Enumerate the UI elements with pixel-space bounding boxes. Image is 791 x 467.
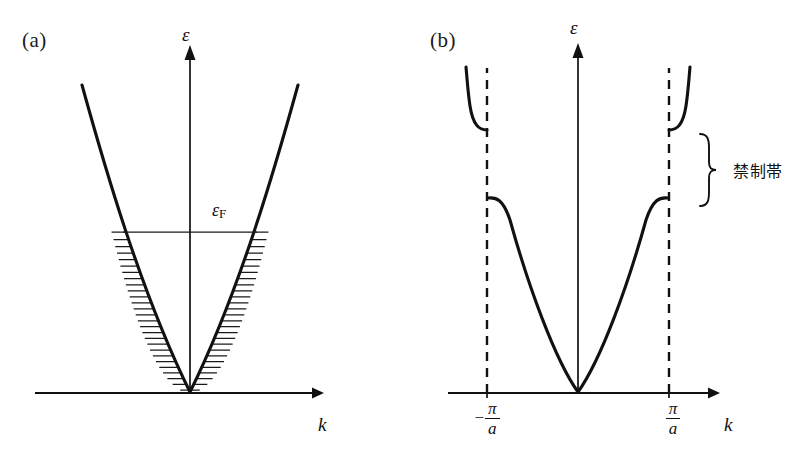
panel-b-k-axis-label: k — [724, 414, 732, 436]
panel-b-label: (b) — [430, 28, 456, 53]
panel-b-k-axis-arrowhead — [708, 388, 720, 399]
panel-a-parabola-left-branch — [82, 85, 190, 392]
fraction-denominator: a — [666, 419, 681, 437]
fraction-denominator: a — [485, 419, 500, 437]
band-gap-annotation-label: 禁制帯 — [733, 158, 783, 182]
fraction-numerator: π — [485, 400, 500, 419]
figure-root: (a) (b) ε k εF ε k −πa πa 禁制帯 — [0, 0, 791, 467]
fermi-energy-label: εF — [212, 200, 226, 222]
panel-b-graphics — [448, 43, 720, 399]
panel-b-energy-axis-label: ε — [570, 17, 578, 39]
band-gap-brace — [700, 134, 716, 206]
panel-a-parabola-right-branch — [190, 85, 298, 392]
tick-label-negative-pi-over-a: −πa — [455, 400, 519, 437]
panel-a-energy-axis-label: ε — [182, 24, 190, 46]
panel-a-k-axis-label: k — [318, 414, 326, 436]
panel-b-upper-band-right — [669, 67, 690, 130]
fraction-numerator: π — [666, 400, 681, 419]
panel-a-energy-axis-arrowhead — [185, 45, 196, 60]
panel-a-label: (a) — [22, 28, 47, 53]
panel-a-graphics — [35, 45, 324, 399]
fermi-energy-subscript: F — [219, 206, 226, 221]
figure-canvas — [0, 0, 791, 467]
tick-minus-sign: − — [474, 409, 484, 426]
panel-a-k-axis-arrowhead — [312, 388, 324, 399]
panel-b-upper-band-left — [466, 67, 487, 130]
fraction-pi-over-a-left: πa — [485, 400, 500, 437]
panel-b-energy-axis-arrowhead — [573, 43, 584, 58]
fraction-pi-over-a-right: πa — [666, 400, 681, 437]
tick-label-positive-pi-over-a: πa — [641, 400, 705, 437]
panel-b-lower-band-left — [488, 198, 578, 392]
panel-b-lower-band-right — [578, 198, 668, 392]
